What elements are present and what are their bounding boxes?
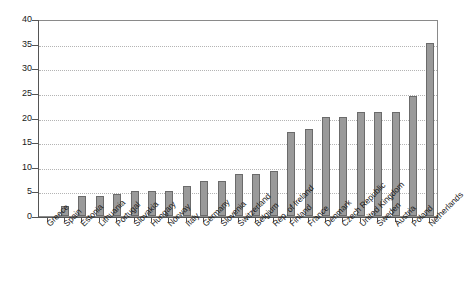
y-axis-tick [32,20,38,21]
bar [409,96,417,216]
gridline [39,70,437,71]
y-axis-tick-label: 35 [4,40,32,49]
y-axis-tick [32,217,38,218]
y-axis-tick-label: 40 [4,15,32,24]
y-axis-tick-label: 30 [4,64,32,73]
y-axis-tick [32,94,38,95]
bar [200,181,208,216]
bar [322,117,330,216]
y-axis-tick-label: 15 [4,138,32,147]
y-axis-tick [32,119,38,120]
y-axis-tick [32,69,38,70]
gridline [39,46,437,47]
y-axis-tick-label: 0 [4,212,32,221]
y-axis-tick-label: 5 [4,187,32,196]
y-axis-line [38,20,39,217]
y-axis-tick [32,143,38,144]
bar [426,43,434,216]
y-axis-tick-label: 25 [4,89,32,98]
gridline [39,95,437,96]
y-axis-tick [32,45,38,46]
y-axis-tick [32,192,38,193]
y-axis-tick-label: 10 [4,163,32,172]
y-axis-tick-label: 20 [4,114,32,123]
y-axis-tick [32,168,38,169]
